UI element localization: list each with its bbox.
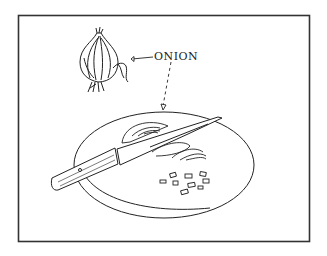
onion-illustration: ONION xyxy=(0,0,327,256)
onion-label-pointer xyxy=(131,57,171,111)
onion-icon xyxy=(80,27,128,92)
onion-label: ONION xyxy=(154,50,198,63)
